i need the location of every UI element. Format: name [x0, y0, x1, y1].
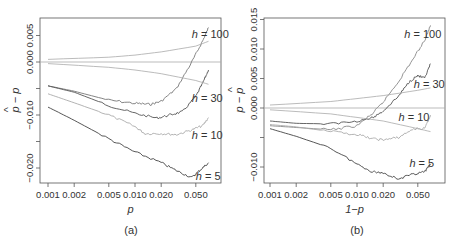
x-tick-label: 0.010: [123, 189, 147, 200]
figure: 0.0010.0020.0050.0100.0200.050 0.0050.00…: [0, 0, 454, 246]
y-axis-ticks-b: 0.0150.0100.0050.000−0.010: [248, 8, 264, 182]
series-trend-upper: [270, 88, 431, 105]
x-tick-label: 0.001: [258, 189, 282, 200]
chart-canvas: 0.0010.0020.0050.0100.0200.050 0.0050.00…: [0, 0, 454, 246]
x-tick-label: 0.005: [97, 189, 121, 200]
y-axis-label-hat-a: ^: [2, 107, 14, 113]
y-axis-label-b: p − p ^: [226, 87, 245, 114]
curve-label: h = 10: [192, 129, 223, 141]
curve-label: h = 5: [409, 157, 434, 169]
x-tick-label: 0.010: [345, 189, 369, 200]
y-tick-label: 0.015: [248, 8, 259, 32]
curve-labels-b: h = 100h = 30h = 10h = 5: [399, 28, 445, 169]
y-tick-label: 0.010: [248, 37, 259, 61]
y-tick-label: −0.020: [24, 153, 35, 182]
series-h5: [270, 129, 431, 180]
y-tick-label: 0.005: [24, 24, 35, 48]
x-axis-ticks-b: 0.0010.0020.0050.0100.0200.050: [258, 183, 430, 200]
x-axis-label-b: 1−p: [345, 203, 364, 215]
x-axis-label-a: p: [126, 203, 133, 215]
y-tick-label: 0.005: [248, 67, 259, 91]
y-tick-label: −0.010: [248, 152, 259, 181]
curve-label: h = 100: [404, 28, 441, 40]
y-axis-label-hat-b: ^: [226, 87, 238, 93]
panel-b: 0.0010.0020.0050.0100.0200.050 0.0150.01…: [226, 8, 445, 236]
panel-a: 0.0010.0020.0050.0100.0200.050 0.0050.00…: [2, 18, 229, 236]
curve-label: h = 5: [196, 170, 221, 182]
x-tick-label: 0.002: [62, 189, 86, 200]
curve-label: h = 30: [192, 92, 223, 104]
curve-label: h = 100: [192, 28, 229, 40]
x-tick-label: 0.050: [184, 189, 208, 200]
y-axis-ticks-a: 0.0050.000−0.010−0.020: [24, 24, 40, 183]
series-h10: [48, 94, 209, 136]
curve-label: h = 30: [414, 78, 445, 90]
series-h5: [48, 107, 209, 177]
series-h30: [48, 70, 209, 119]
panel-label-b: (b): [350, 224, 363, 236]
y-axis-label-a: p − p ^: [2, 88, 21, 114]
y-tick-label: 0.000: [248, 96, 259, 120]
series-trend-upper: [48, 41, 209, 59]
x-tick-label: 0.002: [284, 189, 308, 200]
x-tick-label: 0.020: [371, 189, 395, 200]
x-tick-label: 0.050: [406, 189, 430, 200]
x-tick-label: 0.020: [149, 189, 173, 200]
series-h100: [48, 28, 209, 106]
x-axis-ticks-a: 0.0010.0020.0050.0100.0200.050: [36, 183, 208, 200]
x-tick-label: 0.001: [36, 189, 60, 200]
y-tick-label: 0.000: [24, 50, 35, 74]
x-tick-label: 0.005: [319, 189, 343, 200]
curve-label: h = 10: [399, 111, 430, 123]
y-tick-label: −0.010: [24, 100, 35, 129]
panel-label-a: (a): [124, 224, 137, 236]
